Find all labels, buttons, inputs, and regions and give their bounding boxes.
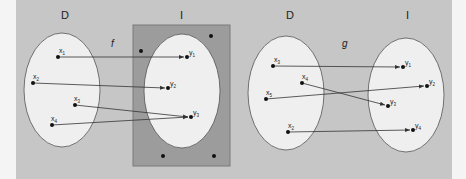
image-ellipse-g [368, 38, 444, 152]
codomain-dot [139, 49, 143, 53]
domain-label-g: D [286, 9, 294, 21]
image-label-f: I [180, 9, 183, 21]
image-ellipse-f [144, 34, 220, 148]
function-mapping-figure: D I f x1 x2 x3 x4 [0, 0, 466, 179]
domain-ellipse-g [248, 36, 324, 150]
domain-label-f: D [61, 9, 69, 21]
codomain-dot [212, 154, 216, 158]
image-label-g: I [406, 9, 409, 21]
codomain-dot [161, 154, 165, 158]
codomain-dot [209, 34, 213, 38]
function-label-g: g [342, 38, 348, 49]
